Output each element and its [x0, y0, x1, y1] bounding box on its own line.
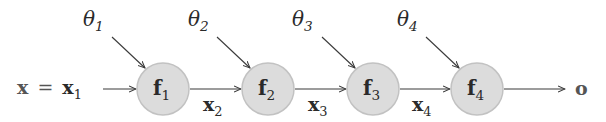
- node-f3-label: f3: [363, 78, 380, 102]
- theta4-label: θ4: [397, 9, 418, 33]
- theta1-label: θ1: [83, 9, 104, 33]
- theta1-arrow: [112, 37, 145, 68]
- input-x: x: [17, 76, 28, 98]
- node-f4-label: f4: [467, 78, 484, 102]
- node-f2-label: f2: [258, 78, 275, 102]
- edge-x2-label: x2: [203, 95, 223, 118]
- input-equals: =: [37, 76, 53, 98]
- theta2-arrow: [217, 37, 250, 68]
- input-x1-sub: 1: [74, 87, 82, 102]
- theta3-arrow: [322, 37, 355, 68]
- edge-x4-label: x4: [412, 95, 432, 118]
- node-f1-label: f1: [153, 78, 170, 102]
- edge-x3-label: x3: [308, 95, 328, 118]
- input-x1: x: [62, 76, 73, 98]
- chain-diagram: x = x1 θ1 θ2 θ3 θ4 f1 f2 f3 f4 x2 x3 x4 …: [0, 0, 606, 122]
- theta3-label: θ3: [292, 9, 313, 33]
- theta2-label: θ2: [188, 9, 209, 33]
- theta4-arrow: [426, 37, 459, 68]
- output-label: o: [575, 79, 588, 98]
- input-label: x = x1: [17, 78, 82, 101]
